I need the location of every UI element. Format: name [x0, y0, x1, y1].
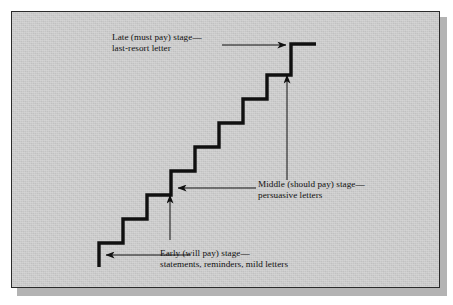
label-middle-stage-line1: Middle (should pay) stage—: [258, 179, 365, 190]
label-late-stage-line1: Late (must pay) stage—: [112, 32, 202, 43]
label-late-stage: Late (must pay) stage— last-resort lette…: [112, 32, 202, 55]
label-middle-stage: Middle (should pay) stage— persuasive le…: [258, 179, 365, 202]
figure-root: Late (must pay) stage— last-resort lette…: [0, 0, 453, 305]
staircase-path: [99, 44, 316, 267]
label-early-stage-line1: Early (will pay) stage—: [160, 248, 288, 259]
label-early-stage: Early (will pay) stage— statements, remi…: [160, 248, 288, 271]
label-late-stage-line2: last-resort letter: [112, 43, 202, 54]
label-middle-stage-line2: persuasive letters: [258, 190, 365, 201]
label-early-stage-line2: statements, reminders, mild letters: [160, 259, 288, 270]
